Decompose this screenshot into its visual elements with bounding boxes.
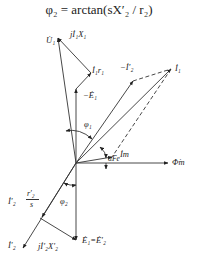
label-I1: İ₁ <box>175 64 181 73</box>
label-I2p-r2-s: İ′₂ <box>8 197 16 206</box>
label-phi2: φ₂ <box>60 197 68 206</box>
jI2pX2p-phasor <box>40 218 76 240</box>
label-minus-E1: −Ė₁ <box>83 91 97 100</box>
label-jI2pX2p: jİ′₂X′₂ <box>38 242 58 251</box>
label-phi1: φ₁ <box>84 120 92 129</box>
phi2-arc <box>64 183 76 185</box>
label-s: s <box>30 201 33 209</box>
label-alpha-Fe: αFe <box>108 155 120 163</box>
label-r2p: r′₂ <box>27 190 35 198</box>
label-minus-I2p: −İ′₂ <box>120 63 133 72</box>
U1-phasor <box>58 38 76 163</box>
label-I1r1: İ₁r₁ <box>92 66 104 75</box>
alpha-fe-arc <box>100 147 106 158</box>
dashed-connector-im <box>112 69 171 157</box>
phi1-arc <box>66 130 92 139</box>
jI1X1-phasor <box>58 38 91 73</box>
I2p-r2p-s-phasor <box>42 163 76 217</box>
phasor-diagram <box>0 0 198 266</box>
label-I2p: İ′₂ <box>8 241 16 250</box>
label-Im: İm <box>120 150 129 159</box>
label-Phi-m: Φ̇m <box>172 158 185 167</box>
I1r1-phasor <box>76 73 91 89</box>
label-U1: U̇₁ <box>46 36 55 45</box>
label-E1-eq-E2p: Ė₁=Ė′₂ <box>82 236 106 245</box>
label-jI1X1: jİ₁X₁ <box>70 30 86 39</box>
